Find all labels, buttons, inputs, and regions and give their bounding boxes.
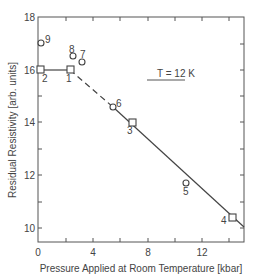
y-tick-label: 10 [24, 223, 36, 234]
point-label: 4 [221, 215, 227, 226]
y-tick-label: 18 [24, 12, 36, 23]
point-label: 2 [42, 73, 48, 84]
chart: 18 16 14 12 10 0 4 8 12 Pressure Applied… [0, 0, 257, 280]
point-label: 7 [80, 49, 86, 60]
circle-markers [38, 40, 189, 186]
y-tick-label: 16 [24, 65, 36, 76]
point-label: 1 [66, 73, 72, 84]
y-axis-label: Residual Resistivity [arb. units] [7, 62, 18, 198]
point-label: 3 [127, 125, 133, 136]
x-tick-label: 4 [90, 247, 96, 258]
x-tick-label: 0 [35, 247, 41, 258]
x-tick-label: 12 [196, 247, 208, 258]
x-axis-label: Pressure Applied at Room Temperature [kb… [40, 263, 243, 274]
point-label: 9 [45, 34, 51, 45]
point-label: 6 [116, 98, 122, 109]
x-ticks [66, 17, 229, 242]
point-label: 5 [183, 186, 189, 197]
point-label: 8 [69, 44, 75, 55]
y-tick-label: 14 [24, 117, 36, 128]
y-tick-label: 12 [24, 170, 36, 181]
square-markers [37, 66, 236, 221]
fit-line-dashed [70, 70, 113, 107]
x-tick-label: 8 [145, 247, 151, 258]
temperature-annotation: T = 12 K [157, 68, 195, 79]
